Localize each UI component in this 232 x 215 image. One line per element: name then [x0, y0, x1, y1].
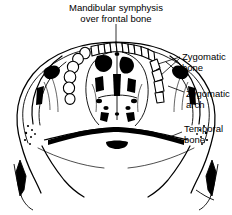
pterygoid-shadow-left — [100, 112, 109, 122]
stipple-dot — [27, 125, 29, 127]
hatch-left-2 — [52, 78, 58, 112]
stipple-dot — [30, 136, 32, 138]
label-zygomatic-bone: Zygomatic bone — [182, 51, 232, 73]
hatch-palate-left — [92, 84, 96, 112]
tooth-right-molar-3 — [155, 92, 164, 103]
zygomatic-body-shadow-left — [44, 66, 60, 80]
condyle-tip-right — [206, 160, 216, 196]
clipped-caption — [0, 208, 232, 215]
hatch-right-2 — [174, 78, 180, 112]
occipital-base-shading — [48, 127, 184, 149]
stipple-dot — [24, 139, 26, 141]
stipple-dot — [31, 129, 33, 131]
tooth-right-molar-2 — [154, 80, 164, 93]
leader-lines — [116, 24, 184, 138]
hatch-palate-right — [138, 84, 142, 112]
foramen-magnum-shadow — [106, 141, 128, 150]
foramen-spinosum — [115, 112, 119, 116]
mandibular-body-line-right — [128, 148, 194, 168]
tooth-left-molar-3 — [65, 94, 75, 105]
tooth-left-2 — [91, 45, 99, 56]
vomer-shadow — [113, 74, 121, 96]
hatch-left-1 — [44, 82, 50, 110]
nasal-aperture-shadow-left — [95, 55, 112, 72]
palatine-shadow-2 — [127, 78, 136, 93]
stipple-dot — [29, 143, 31, 145]
label-temporal-bone: Temporal bone — [184, 123, 232, 145]
label-mandibular-symphysis: Mandibular symphysis over frontal bone — [52, 2, 180, 24]
stipple-dot — [34, 133, 36, 135]
foramen-ovale-left — [103, 106, 108, 110]
tooth-left-molar-1 — [64, 71, 76, 83]
mandibular-rami — [38, 146, 194, 197]
tooth-right-canine — [141, 47, 149, 60]
greater-palatine-foramen-left — [96, 99, 102, 103]
zygomatic-arch-shadow-left — [36, 86, 44, 105]
nasal-and-foramina-shading — [95, 52, 137, 122]
mandibular-ramus-left — [42, 146, 84, 197]
anatomical-figure: Mandibular symphysis over frontal bone Z… — [0, 0, 232, 215]
palatine-shadow-1 — [95, 76, 104, 92]
nasal-aperture-shadow-right — [119, 57, 134, 74]
incisive-foramen — [115, 52, 120, 56]
mandibular-body-line-left — [38, 148, 104, 168]
mandibular-ramus-right — [148, 146, 190, 197]
condyle-tip-left — [16, 160, 26, 196]
greater-palatine-foramen-right — [131, 99, 137, 103]
foramen-ovale-right — [125, 106, 130, 110]
pterygoid-shadow-right — [126, 112, 135, 122]
tooth-left-molar-2 — [63, 82, 74, 94]
stipple-dot — [25, 132, 27, 134]
mandibular-condyle-tips — [14, 160, 218, 210]
label-zygomatic-arch: Zygomatic arch — [186, 88, 232, 110]
